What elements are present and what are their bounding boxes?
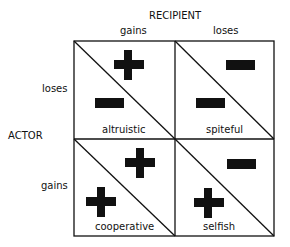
minus-icon: [95, 98, 124, 108]
plus-icon: [125, 148, 155, 178]
plus-icon: [194, 188, 224, 218]
plus-icon: [86, 187, 116, 217]
cell-label-selfish: selfish: [203, 221, 235, 232]
minus-icon: [196, 98, 225, 108]
plus-icon: [114, 50, 144, 80]
cell-label-cooperative: cooperative: [95, 221, 154, 232]
cell-label-altruistic: altruistic: [102, 124, 145, 135]
minus-icon: [226, 60, 255, 70]
cell-label-spiteful: spiteful: [206, 124, 243, 135]
minus-icon: [227, 159, 256, 169]
